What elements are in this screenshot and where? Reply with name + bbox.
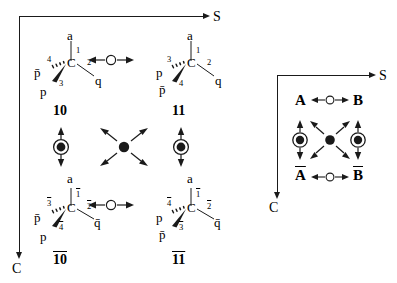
s-axis-line-left [19,16,205,17]
operator-horizontal-top-left-panel [86,52,136,72]
corner-label-a: A [295,93,306,108]
locant-4-11: 4 [179,79,183,88]
right-panel: S C A B [255,0,397,283]
atom-label-pbar-11: p̄ [159,83,166,96]
atom-label-p-10-bar: p [40,230,47,243]
locant-1-10: 1 [76,46,80,55]
operator-diagonal-center-right-panel [307,117,353,167]
operator-vertical-right-left-panel [170,126,192,172]
locant-3-11: 3 [167,55,171,64]
locant-4-bar-11-bar: 4 [167,199,171,208]
c-axis-arrowhead-right [274,192,280,199]
s-axis-label-right: S [379,69,387,83]
atom-label-q-11: q [215,74,222,87]
atom-label-p-11-bar: p [156,211,163,224]
locant-1-bar-10-bar: 1 [76,190,80,199]
operator-diagonal-center-left-panel [95,124,153,174]
atom-label-a-11: a [187,29,193,42]
s-axis-arrowhead-left [203,13,210,19]
atom-label-a-10: a [67,29,73,42]
atom-label-a-10-bar: a [67,172,73,185]
c-axis-arrowhead-left [16,252,22,259]
locant-3-bar-10-bar: 3 [47,199,51,208]
atom-label-qbar-11-bar: q̄ [214,216,221,229]
locant-4-bar-10-bar: 4 [59,223,63,232]
atom-label-center-11-bar: C [187,201,196,214]
atom-label-pbar-10: p̄ [34,66,41,79]
locant-2-11: 2 [207,58,211,67]
atom-label-qbar-10-bar: q̄ [94,216,101,229]
locant-4-10: 4 [47,55,51,64]
operator-vertical-left-left-panel [50,126,72,172]
atom-label-pbar-10-bar: p̄ [34,211,41,224]
atom-label-center-10: C [67,56,76,69]
locant-1-bar-11-bar: 1 [196,190,200,199]
atom-label-p-11: p [156,66,163,79]
operator-horizontal-bottom-right-panel [309,169,351,189]
compound-label-10: 10 [53,104,67,118]
operator-horizontal-bottom-left-panel [86,197,136,217]
locant-1-11: 1 [196,46,200,55]
s-axis-arrowhead-right [369,72,376,78]
compound-label-11-bar: 11 [172,253,185,267]
locant-3-10: 3 [59,79,63,88]
c-axis-label-right: C [269,201,278,215]
locant-3-bar-11-bar: 3 [179,223,183,232]
atom-label-q-10: q [95,74,102,87]
atom-label-p-10: p [40,85,47,98]
atom-label-a-11-bar: a [187,172,193,185]
s-axis-label-left: S [213,10,221,24]
c-axis-label-left: C [12,262,21,276]
compound-label-10-bar: 10 [53,253,67,267]
atom-label-center-11: C [187,56,196,69]
left-panel: S C a 1 C 2 q 4 p̄ 3 p [0,0,245,283]
locant-2-bar-11-bar: 2 [207,202,211,211]
compound-label-11: 11 [172,104,185,118]
structure-11-bar: a 1 C 2 q̄ 4 p 3 p̄ [148,178,244,240]
corner-label-a-bar: A [295,168,306,183]
s-axis-line-right [277,75,371,76]
c-axis-line-left [19,16,20,254]
atom-label-pbar-11-bar: p̄ [159,228,166,241]
operator-horizontal-top-right-panel [309,92,351,112]
structure-11: a 1 C 2 q 3 p 4 p̄ [148,33,244,95]
c-axis-line-right [277,75,278,194]
corner-label-b: B [353,93,363,108]
corner-label-b-bar: B [353,168,363,183]
atom-label-center-10-bar: C [67,201,76,214]
